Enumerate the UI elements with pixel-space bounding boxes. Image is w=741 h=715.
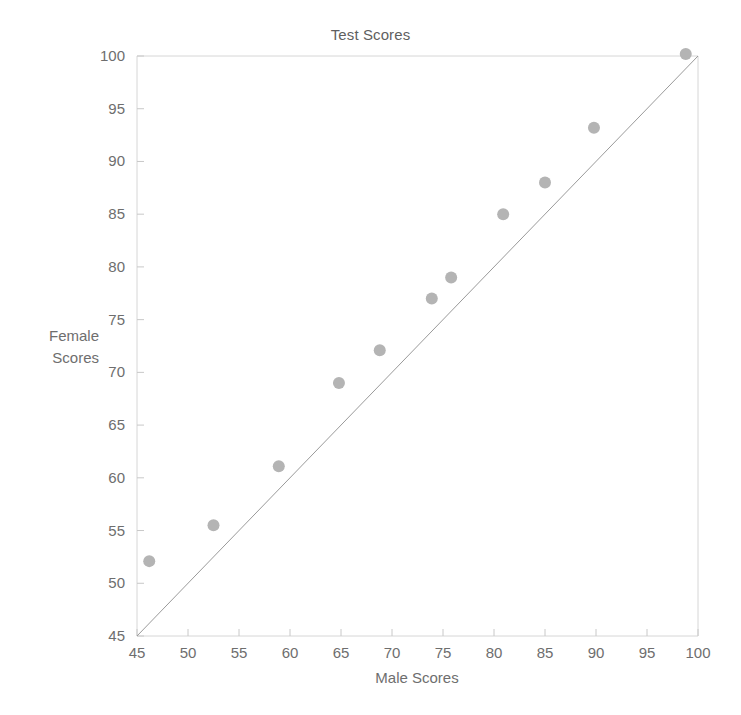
y-tick-label: 95 bbox=[108, 100, 125, 117]
x-tick-label: 85 bbox=[537, 644, 554, 661]
y-tick-label: 50 bbox=[108, 574, 125, 591]
y-tick-label: 100 bbox=[100, 47, 125, 64]
scatter-chart: Test Scores 4550556065707580859095100 45… bbox=[0, 0, 741, 715]
data-point bbox=[374, 344, 386, 356]
x-tick-label: 55 bbox=[231, 644, 248, 661]
y-tick-label: 85 bbox=[108, 205, 125, 222]
x-tick-label: 50 bbox=[180, 644, 197, 661]
y-tick-label: 75 bbox=[108, 311, 125, 328]
x-tick-label: 65 bbox=[333, 644, 350, 661]
y-tick-label: 60 bbox=[108, 469, 125, 486]
x-tick-label: 90 bbox=[588, 644, 605, 661]
y-tick-label: 45 bbox=[108, 627, 125, 644]
x-axis-ticks: 4550556065707580859095100 bbox=[129, 629, 711, 661]
y-axis-title-line-2: Scores bbox=[52, 349, 99, 366]
y-tick-label: 55 bbox=[108, 522, 125, 539]
data-point bbox=[426, 293, 438, 305]
y-tick-label: 80 bbox=[108, 258, 125, 275]
y-axis-title-line-1: Female bbox=[49, 327, 99, 344]
x-tick-label: 70 bbox=[384, 644, 401, 661]
data-point bbox=[208, 519, 220, 531]
x-tick-label: 45 bbox=[129, 644, 146, 661]
plot-area: 4550556065707580859095100 45505560657075… bbox=[0, 0, 741, 715]
data-point bbox=[445, 271, 457, 283]
data-point bbox=[333, 377, 345, 389]
y-tick-label: 65 bbox=[108, 416, 125, 433]
data-point-series bbox=[143, 48, 692, 567]
x-tick-label: 60 bbox=[282, 644, 299, 661]
data-point bbox=[143, 555, 155, 567]
data-point bbox=[497, 208, 509, 220]
data-point bbox=[539, 177, 551, 189]
data-point bbox=[680, 48, 692, 60]
data-point bbox=[588, 122, 600, 134]
x-tick-label: 75 bbox=[435, 644, 452, 661]
x-axis-title: Male Scores bbox=[375, 669, 458, 686]
x-tick-label: 95 bbox=[639, 644, 656, 661]
data-point bbox=[273, 460, 285, 472]
x-tick-label: 100 bbox=[685, 644, 710, 661]
identity-reference-line bbox=[137, 56, 698, 636]
x-tick-label: 80 bbox=[486, 644, 503, 661]
y-tick-label: 90 bbox=[108, 152, 125, 169]
y-tick-label: 70 bbox=[108, 363, 125, 380]
